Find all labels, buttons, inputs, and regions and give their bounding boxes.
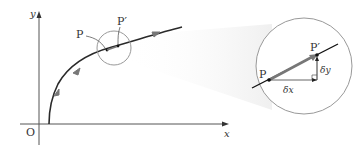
magnified-point-P xyxy=(267,78,271,82)
y-axis-arrow-icon xyxy=(37,11,42,18)
direction-arrow-icon xyxy=(73,68,80,75)
leader-line-P-prime xyxy=(118,27,120,44)
dx-label: δx xyxy=(283,85,294,95)
x-axis-arrow-icon xyxy=(222,122,229,127)
magnified-label-P-prime: P′ xyxy=(310,41,320,54)
magnified-label-P: P xyxy=(259,68,267,81)
diagram-canvas: y x O P P′ P P′ δx δy xyxy=(0,0,362,155)
origin-label: O xyxy=(26,126,35,139)
zoom-circle-large xyxy=(256,18,352,114)
y-axis-label: y xyxy=(29,8,36,19)
leader-line-P xyxy=(86,36,105,48)
label-P: P xyxy=(76,28,84,41)
label-P-prime: P′ xyxy=(117,15,127,28)
dy-label: δy xyxy=(320,65,331,75)
x-axis-label: x xyxy=(224,128,230,139)
